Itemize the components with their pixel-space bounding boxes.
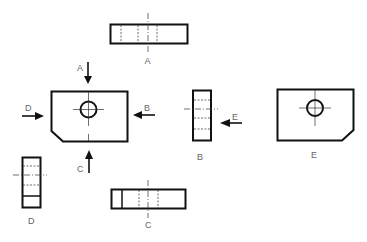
arrow-a-label: A	[77, 63, 83, 73]
arrow-b: B	[133, 103, 155, 119]
arrow-b-label: B	[144, 103, 150, 113]
main-part	[52, 92, 128, 142]
arrow-a: A	[77, 62, 92, 84]
view-d: D	[13, 158, 47, 227]
view-e: E	[278, 90, 354, 161]
view-a-label: A	[145, 56, 151, 66]
view-a: A	[111, 13, 188, 66]
arrow-e-label: E	[232, 112, 238, 122]
orthographic-drawing: A A B C D B	[0, 0, 367, 242]
arrow-c-label: C	[77, 164, 84, 174]
arrow-c: C	[77, 150, 93, 174]
drawing-canvas: A A B C D B	[0, 0, 367, 242]
view-e-label: E	[311, 150, 317, 160]
arrow-d: D	[22, 103, 44, 120]
view-d-label: D	[28, 216, 35, 226]
arrow-d-label: D	[25, 103, 32, 113]
arrow-e: E	[220, 112, 242, 127]
view-b: B	[184, 91, 218, 163]
view-b-label: B	[197, 152, 203, 162]
view-c-label: C	[145, 220, 152, 230]
view-c: C	[112, 180, 186, 230]
